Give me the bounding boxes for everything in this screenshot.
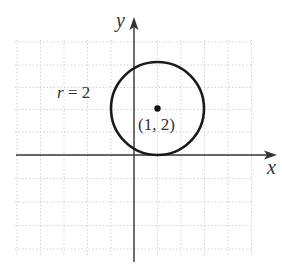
coordinate-plane-figure: y x (1, 2) r = 2 xyxy=(0,0,282,264)
center-point xyxy=(154,105,160,111)
center-label: (1, 2) xyxy=(138,115,175,134)
radius-label: r = 2 xyxy=(57,83,90,102)
x-axis-label: x xyxy=(266,156,276,178)
y-axis-label: y xyxy=(114,9,125,32)
radius-label-value: = 2 xyxy=(64,83,91,102)
